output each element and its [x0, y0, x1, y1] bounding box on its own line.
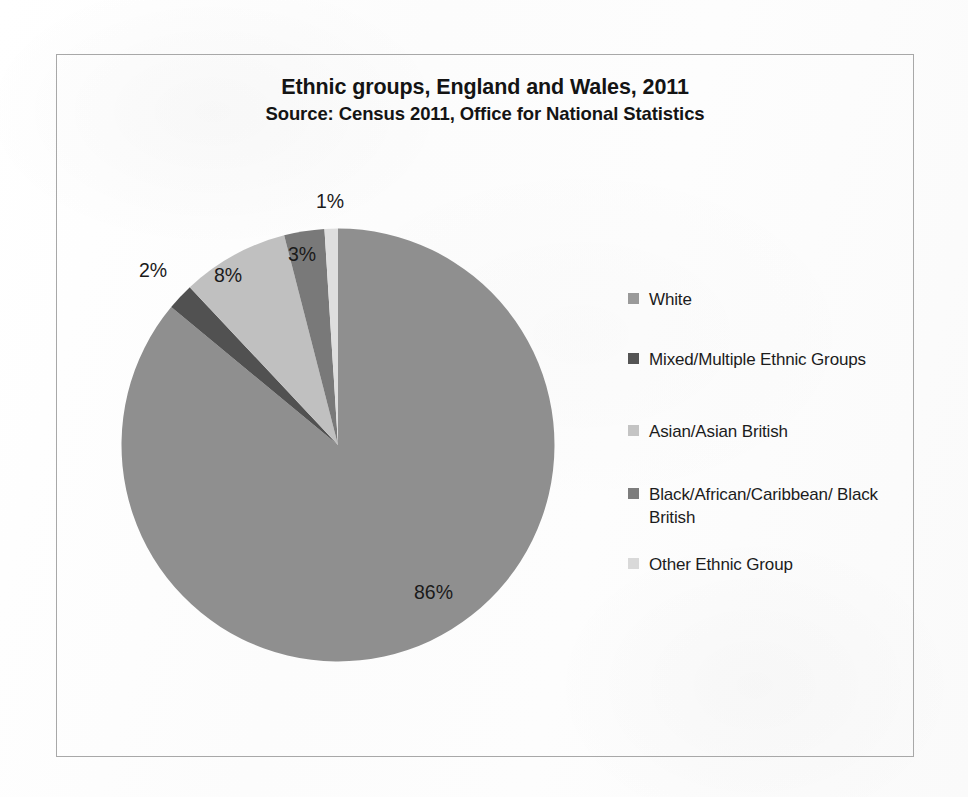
chart-title: Ethnic groups, England and Wales, 2011: [56, 74, 914, 101]
legend-swatch-icon: [628, 425, 639, 436]
legend-item-label: Other Ethnic Group: [649, 553, 793, 576]
pie-label-black-african-caribbean: 3%: [288, 243, 316, 266]
legend-swatch-icon: [628, 353, 639, 364]
pie-label-other-ethnic-group: 1%: [316, 190, 344, 213]
legend-item-label: Mixed/Multiple Ethnic Groups: [649, 348, 866, 371]
legend-item-label: Black/African/Caribbean/ Black British: [649, 483, 900, 529]
legend-swatch-icon: [628, 558, 639, 569]
legend-item-mixed-multiple-ethnic-groups[interactable]: Mixed/Multiple Ethnic Groups: [628, 348, 866, 371]
legend-swatch-icon: [628, 293, 639, 304]
legend-item-other-ethnic-group[interactable]: Other Ethnic Group: [628, 553, 793, 576]
pie-chart: [121, 228, 555, 662]
legend-item-black-african-caribbean-black-british[interactable]: Black/African/Caribbean/ Black British: [628, 483, 900, 529]
legend-item-label: Asian/Asian British: [649, 420, 788, 443]
legend-swatch-icon: [628, 488, 639, 499]
pie-label-mixed-multiple: 2%: [139, 259, 167, 282]
legend-item-label: White: [649, 288, 692, 311]
pie-chart-svg: [121, 228, 555, 662]
legend-item-white[interactable]: White: [628, 288, 692, 311]
chart-title-block: Ethnic groups, England and Wales, 2011 S…: [56, 74, 914, 126]
pie-label-white: 86%: [414, 581, 453, 604]
pie-slice-group: [121, 229, 554, 662]
chart-subtitle-source: Source: Census 2011, Office for National…: [56, 101, 914, 126]
legend-item-asian-asian-british[interactable]: Asian/Asian British: [628, 420, 788, 443]
pie-label-asian-asian-british: 8%: [214, 264, 242, 287]
